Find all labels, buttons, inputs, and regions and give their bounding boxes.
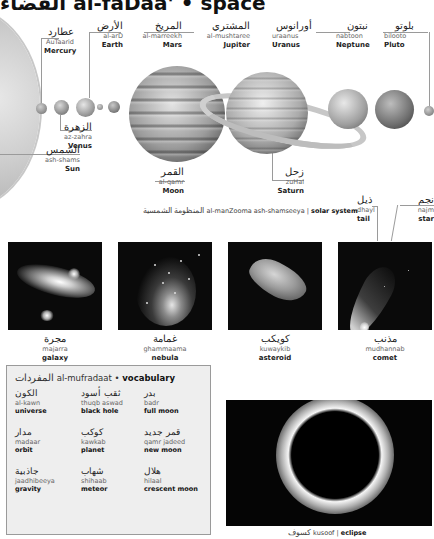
- asteroid-arabic: كويكب: [228, 333, 322, 345]
- solar-system-caption-arabic: المنظومة الشمسية: [143, 206, 204, 215]
- label-earth: الأرض al-arD Earth: [95, 20, 123, 49]
- label-star: نجم najm star: [412, 194, 434, 223]
- comet-translit: mudhannab: [338, 345, 432, 354]
- venus-translit: az-zahra: [62, 133, 92, 142]
- vocab-item-black-hole: ثقب أسود thuqb aswad black hole: [81, 388, 123, 415]
- eclipse-english: eclipse: [341, 529, 367, 537]
- leader-line-star: [400, 205, 434, 206]
- asteroid-english: asteroid: [228, 354, 322, 363]
- pluto-english: Pluto: [384, 41, 414, 50]
- label-sun: الشمس ash-shams Sun: [40, 144, 80, 173]
- galaxy-caption: مجرة majarra galaxy: [8, 333, 102, 362]
- page-title: الفضاء al-faDaa' • space: [0, 0, 266, 15]
- mars-translit: al-marreekh: [140, 32, 182, 41]
- vocab-arabic: جاذبية: [15, 466, 55, 477]
- galaxy-translit: majarra: [8, 345, 102, 354]
- mercury-english: Mercury: [44, 47, 74, 56]
- saturn-translit: zuHal: [274, 178, 304, 187]
- vocab-translit: jaadhibeeya: [15, 477, 55, 485]
- earth-english: Earth: [95, 41, 123, 50]
- pluto-image: [424, 106, 434, 116]
- saturn-arabic: زحل: [274, 166, 304, 178]
- asteroid-translit: kuwaykib: [228, 345, 322, 354]
- vocab-translit: al-kawn: [15, 399, 47, 407]
- eclipse-translit: kusoof: [313, 529, 334, 537]
- pluto-arabic: بلوتو: [384, 20, 414, 32]
- mercury-image: [36, 103, 47, 114]
- comet-arabic: مذنب: [338, 333, 432, 345]
- asteroid-photo: [228, 242, 322, 330]
- title-separator: •: [181, 0, 194, 15]
- mars-english: Mars: [140, 41, 182, 50]
- earth-image: [76, 98, 95, 117]
- vocab-arabic: الكون: [15, 388, 47, 399]
- vocab-arabic: قمر جديد: [144, 427, 185, 438]
- eclipse-arabic: كسوف: [288, 528, 311, 537]
- star-english: star: [412, 215, 434, 224]
- vocab-english: black hole: [81, 407, 123, 415]
- vocabulary-title-separator: •: [115, 373, 120, 383]
- asteroid-caption: كويكب kuwaykib asteroid: [228, 333, 322, 362]
- vocab-english: universe: [15, 407, 47, 415]
- leader-line-star-diagonal: [391, 205, 398, 241]
- comet-photo: [338, 242, 432, 330]
- leader-line-tail: [372, 206, 378, 241]
- vocab-translit: shihaab: [81, 477, 107, 485]
- vocab-translit: qamr jadeed: [144, 438, 185, 446]
- label-neptune: نبتون nabtoon Neptune: [336, 20, 368, 49]
- star-dot: [174, 292, 176, 294]
- star-dot: [180, 260, 182, 262]
- vocab-english: crescent moon: [144, 485, 198, 493]
- vocab-item-full-moon: بدر badr full moon: [144, 388, 179, 415]
- vocab-arabic: ثقب أسود: [81, 388, 123, 399]
- vocab-translit: thuqb aswad: [81, 399, 123, 407]
- eclipse-photo: [226, 400, 432, 526]
- comet-head: [360, 322, 369, 330]
- vocab-arabic: مدار: [15, 427, 40, 438]
- eclipse-moon-disc: [294, 412, 376, 494]
- moon-english: Moon: [150, 187, 184, 196]
- jupiter-translit: al-mushtaree: [204, 32, 250, 41]
- nebula-arabic: غمامة: [118, 333, 212, 345]
- uranus-arabic: أورانوس: [272, 20, 312, 32]
- nebula-caption: غمامة ghammaama nebula: [118, 333, 212, 362]
- sun-translit: ash-shams: [40, 156, 80, 165]
- star-dot: [162, 282, 164, 284]
- moon-translit: al-qamr: [150, 178, 184, 187]
- label-saturn: زحل zuHal Saturn: [274, 166, 304, 195]
- vocab-translit: hilaal: [144, 477, 198, 485]
- galaxy-english: galaxy: [8, 354, 102, 363]
- tail-arabic: ذيل: [357, 194, 387, 206]
- star-dot: [384, 286, 385, 287]
- vocab-translit: badr: [144, 399, 179, 407]
- jupiter-english: Jupiter: [204, 41, 250, 50]
- galaxy-core: [14, 258, 98, 305]
- vocab-item-universe: الكون al-kawn universe: [15, 388, 47, 415]
- venus-image: [54, 100, 69, 115]
- vocab-item-gravity: جاذبية jaadhibeeya gravity: [15, 466, 55, 493]
- vocab-item-planet: كوكب kawkab planet: [81, 427, 106, 454]
- eclipse-caption: كسوف kusoof | eclipse: [288, 528, 366, 537]
- leader-line-pluto-vertical: [429, 32, 430, 106]
- comet-tail: [340, 261, 402, 330]
- vocab-english: new moon: [144, 446, 185, 454]
- vocab-arabic: كوكب: [81, 427, 106, 438]
- uranus-translit: uraanus: [272, 32, 312, 41]
- vocabulary-title-english: vocabulary: [122, 373, 175, 383]
- vocab-item-orbit: مدار madaar orbit: [15, 427, 40, 454]
- title-translit: al-faDaa': [73, 0, 174, 15]
- vocabulary-title: المفردات al-mufradaat • vocabulary: [15, 372, 175, 383]
- nebula-photo: [118, 242, 212, 330]
- vocab-english: gravity: [15, 485, 55, 493]
- label-uranus: أورانوس uraanus Uranus: [272, 20, 312, 49]
- uranus-english: Uranus: [272, 41, 312, 50]
- sun-english: Sun: [40, 165, 80, 174]
- neptune-arabic: نبتون: [336, 20, 368, 32]
- vocab-item-meteor: شهاب shihaab meteor: [81, 466, 107, 493]
- vocab-arabic: شهاب: [81, 466, 107, 477]
- label-mars: المريخ al-marreekh Mars: [140, 20, 182, 49]
- solar-system-caption: المنظومة الشمسية al-manZooma ash-shamsee…: [143, 206, 358, 215]
- vocabulary-title-arabic: المفردات: [15, 372, 54, 383]
- vocabulary-title-translit: al-mufradaat: [57, 373, 112, 383]
- mars-image: [108, 101, 120, 113]
